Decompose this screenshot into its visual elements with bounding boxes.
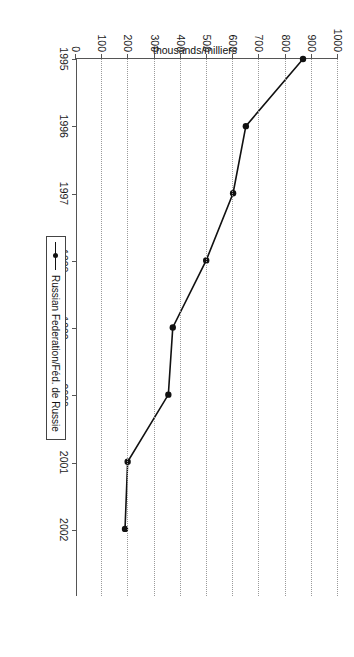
- plot-area: 0100200300400500600700800900100019951996…: [76, 58, 338, 596]
- y-axis-tick: [127, 54, 128, 59]
- y-axis-tick-label: 400: [175, 34, 187, 52]
- y-axis-tick-label: 200: [122, 34, 134, 52]
- y-gridline: [337, 59, 338, 596]
- y-gridline: [101, 59, 102, 596]
- chart-legend: Russian Federation/Féd. de Russie: [46, 236, 66, 440]
- y-axis-tick: [180, 54, 181, 59]
- data-point-marker: [170, 324, 176, 330]
- x-axis-tick-label: 1995: [58, 47, 70, 70]
- y-axis-tick-label: 700: [253, 34, 265, 52]
- legend-entry-label: Russian Federation/Féd. de Russie: [51, 275, 62, 432]
- y-axis-tick-label: 0: [70, 46, 82, 52]
- y-axis-tick: [258, 54, 259, 59]
- y-axis-tick-label: 600: [227, 34, 239, 52]
- line-with-dot-marker-icon: [51, 242, 61, 270]
- y-gridline: [154, 59, 155, 596]
- y-axis-tick-label: 1000: [332, 29, 344, 52]
- y-gridline: [180, 59, 181, 596]
- y-axis-tick: [206, 54, 207, 59]
- y-gridline: [285, 59, 286, 596]
- y-gridline: [127, 59, 128, 596]
- y-axis-title: thousands/milliers: [153, 44, 237, 56]
- y-axis-tick: [337, 54, 338, 59]
- y-axis-tick-label: 900: [306, 34, 318, 52]
- y-gridline: [311, 59, 312, 596]
- y-gridline: [258, 59, 259, 596]
- chart-title-block: Inflows of foreign population to Russian…: [0, 0, 34, 657]
- x-axis-tick: [72, 194, 77, 195]
- y-axis-tick: [101, 54, 102, 59]
- data-series-line: [77, 59, 338, 596]
- y-axis-tick-label: 800: [280, 34, 292, 52]
- y-axis-tick-label: 500: [201, 34, 213, 52]
- y-axis-tick: [154, 54, 155, 59]
- y-axis-tick-label: 300: [149, 34, 161, 52]
- x-axis-tick: [72, 395, 77, 396]
- x-axis-tick: [72, 261, 77, 262]
- x-axis-tick-label: 2002: [58, 518, 70, 541]
- data-point-marker: [300, 56, 306, 62]
- x-axis-tick-label: 1997: [58, 182, 70, 205]
- x-axis-tick-label: 1996: [58, 115, 70, 138]
- x-axis-tick: [72, 59, 77, 60]
- series-line: [125, 59, 303, 529]
- data-point-marker: [165, 391, 171, 397]
- chart-canvas: thousands/milliers 010020030040050060070…: [36, 0, 354, 657]
- plot-wrapper: thousands/milliers 010020030040050060070…: [36, 0, 354, 657]
- x-axis-tick-label: 2001: [58, 451, 70, 474]
- y-axis-tick: [232, 54, 233, 59]
- x-axis-tick: [72, 530, 77, 531]
- y-gridline: [232, 59, 233, 596]
- x-axis-tick: [72, 328, 77, 329]
- y-axis-tick: [285, 54, 286, 59]
- data-point-marker: [243, 123, 249, 129]
- y-axis-tick: [311, 54, 312, 59]
- x-axis-tick: [72, 463, 77, 464]
- y-gridline: [206, 59, 207, 596]
- y-axis-tick-label: 100: [96, 34, 108, 52]
- x-axis-tick: [72, 126, 77, 127]
